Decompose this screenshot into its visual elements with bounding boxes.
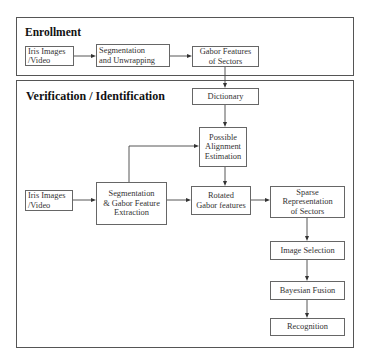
recognition-box: Recognition	[270, 318, 345, 336]
sparse-representation-box: Sparse Representation of Sectors	[270, 186, 345, 218]
verify-iris-box: Iris Images /Video	[25, 190, 73, 211]
verification-title: Verification / Identification	[26, 89, 165, 104]
dictionary-box: Dictionary	[192, 88, 259, 105]
enroll-iris-box: Iris Images /Video	[25, 46, 74, 66]
image-selection-box: Image Selection	[270, 241, 345, 260]
verify-segmentation-box: Segmentation & Gabor Feature Extraction	[96, 182, 167, 225]
bayesian-fusion-box: Bayesian Fusion	[270, 281, 345, 300]
enroll-gabor-features-box: Gabor Features of Sectors	[192, 46, 259, 67]
alignment-estimation-box: Possible Alignment Estimation	[199, 127, 247, 167]
enroll-segmentation-box: Segmentation and Unwrapping	[96, 44, 170, 67]
enrollment-title: Enrollment	[25, 26, 81, 38]
rotated-gabor-box: Rotated Gabor features	[191, 186, 251, 215]
